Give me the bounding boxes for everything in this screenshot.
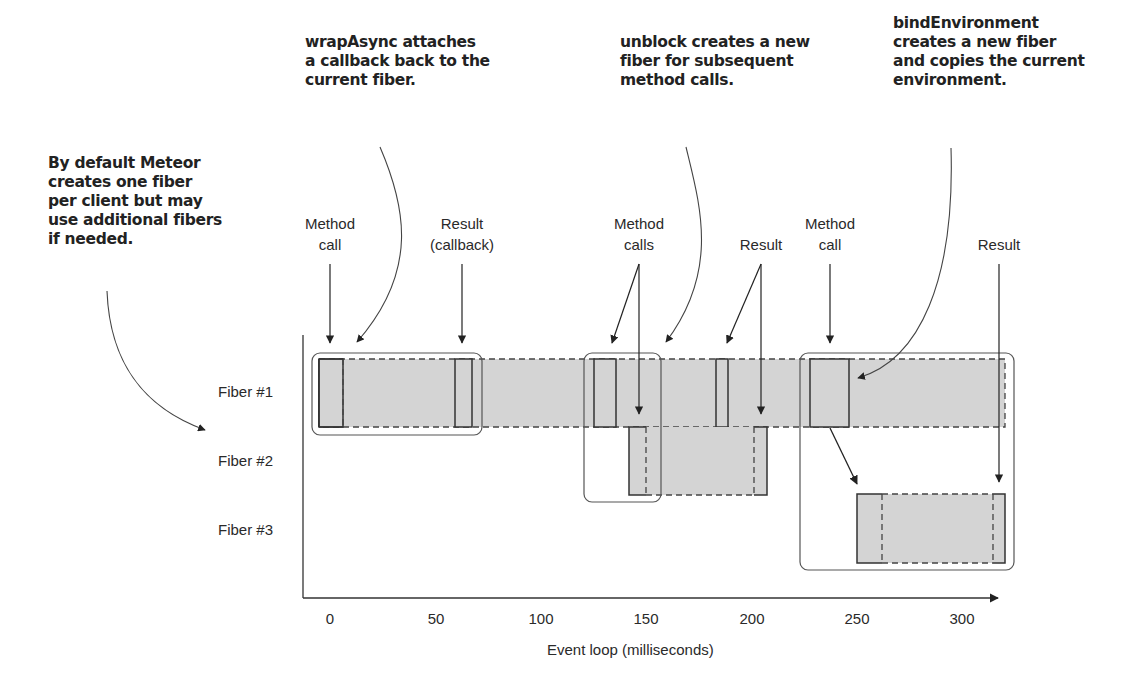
x-axis-label: Event loop (milliseconds) [547,641,714,658]
label-method-call-1: Method call [295,213,365,255]
label-result-callback: Result (callback) [417,213,507,255]
x-tick-200: 200 [739,610,764,627]
annotation-unblock: unblock creates a new fiber for subseque… [620,33,810,90]
annotation-default-meteor: By default Meteor creates one fiber per … [48,154,222,249]
x-tick-50: 50 [428,610,445,627]
fiber-1-method-calls-block [594,359,616,427]
fiber-timeline-diagram [0,0,1137,691]
fiber-3-bar [857,494,1005,563]
x-tick-300: 300 [949,610,974,627]
label-result-3: Result [964,234,1034,255]
label-method-call-2: Method call [795,213,865,255]
annotation-wrapasync: wrapAsync attaches a callback back to th… [305,33,490,90]
fiber-3-spawn-arrow [830,428,857,484]
method-calls-arrow-a [612,264,639,343]
x-tick-0: 0 [326,610,334,627]
x-tick-250: 250 [844,610,869,627]
annotation-bindenvironment: bindEnvironment creates a new fiber and … [893,14,1085,90]
default-meteor-curve-arrow [107,291,205,430]
label-method-calls: Method calls [604,213,674,255]
fiber-1-bind-method-block [810,359,849,427]
fiber-label-2: Fiber #2 [218,452,273,469]
fiber-label-1: Fiber #1 [218,383,273,400]
fiber-2-bar [629,427,767,495]
bindenvironment-curve-arrow [858,148,951,378]
x-tick-100: 100 [528,610,553,627]
fiber-1-result-block [716,359,728,427]
fiber-1-bar [319,359,1005,427]
x-tick-150: 150 [633,610,658,627]
result-2-arrow-a [727,264,761,343]
label-result-2: Result [726,234,796,255]
fiber-label-3: Fiber #3 [218,521,273,538]
result-callback-block [455,359,472,427]
